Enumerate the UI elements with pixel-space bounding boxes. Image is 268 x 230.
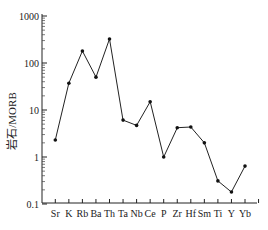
data-point: [243, 164, 247, 168]
y-tick-label: 1: [34, 152, 39, 163]
x-tick-label: Y: [228, 208, 235, 219]
spider-diagram: 0.11101001000 SrKRbBaThTaNbCePZrHfSmTiYY…: [0, 0, 268, 230]
data-point: [67, 81, 71, 85]
data-point: [81, 49, 85, 53]
x-tick-label: Ta: [118, 208, 128, 219]
x-tick-label: Nb: [130, 208, 142, 219]
x-tick-label: Ti: [214, 208, 223, 219]
x-tick-label: Hf: [186, 208, 197, 219]
data-line: [55, 39, 245, 192]
x-tick-label: Yb: [239, 208, 251, 219]
y-tick-label: 1000: [19, 11, 39, 22]
y-tick-label: 10: [29, 105, 39, 116]
data-point: [162, 155, 166, 159]
axes: [42, 14, 257, 203]
x-tick-label: K: [65, 208, 73, 219]
x-ticks: SrKRbBaThTaNbCePZrHfSmTiYYb: [51, 199, 259, 219]
data-point: [135, 124, 139, 128]
data-point: [203, 141, 207, 145]
data-point: [189, 125, 193, 129]
x-tick-label: Rb: [77, 208, 89, 219]
x-tick-label: Th: [104, 208, 115, 219]
y-axis-label: 岩石/MORB: [3, 89, 17, 153]
data-point: [230, 190, 234, 194]
y-tick-label: 0.1: [27, 199, 40, 210]
data-point: [216, 179, 220, 183]
data-point: [108, 37, 112, 41]
data-point: [94, 75, 98, 79]
data-point: [175, 126, 179, 130]
x-tick-label: P: [161, 208, 167, 219]
x-tick-label: Ba: [90, 208, 102, 219]
x-tick-label: Sr: [51, 208, 61, 219]
y-tick-label: 100: [24, 58, 39, 69]
data-point: [121, 118, 125, 122]
x-tick-label: Ce: [145, 208, 157, 219]
data-point: [148, 100, 152, 104]
x-tick-label: Zr: [173, 208, 183, 219]
data-markers: [54, 37, 247, 194]
data-point: [54, 138, 58, 142]
y-ticks: 0.11101001000: [19, 11, 47, 210]
x-tick-label: Sm: [198, 208, 212, 219]
